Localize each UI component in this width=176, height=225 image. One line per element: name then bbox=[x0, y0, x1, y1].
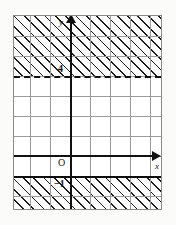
grid-line-horizontal bbox=[14, 196, 161, 197]
y-axis-arrow-icon bbox=[66, 15, 76, 23]
x-axis-arrow-icon bbox=[152, 151, 161, 161]
tick-label-neg1: −1 bbox=[54, 179, 65, 189]
grid-line-vertical bbox=[150, 16, 151, 209]
coordinate-plane: y x O 4 −1 bbox=[13, 15, 162, 210]
grid-line-vertical bbox=[110, 16, 111, 209]
grid-line-horizontal bbox=[14, 56, 161, 57]
grid-line-vertical bbox=[50, 16, 51, 209]
grid-line-horizontal bbox=[14, 116, 161, 117]
grid-line-horizontal bbox=[14, 36, 161, 37]
y-axis bbox=[70, 20, 72, 209]
x-axis bbox=[14, 155, 153, 157]
graph-figure: y x O 4 −1 bbox=[0, 0, 176, 225]
grid-line-horizontal bbox=[14, 96, 161, 97]
origin-label: O bbox=[58, 158, 65, 168]
shaded-region-above-4 bbox=[14, 16, 161, 77]
grid-line-horizontal bbox=[14, 136, 161, 137]
x-axis-label: x bbox=[155, 162, 159, 171]
shaded-region-below-neg1 bbox=[14, 177, 161, 209]
grid-line-vertical bbox=[130, 16, 131, 209]
grid-line-vertical bbox=[90, 16, 91, 209]
grid-line-vertical bbox=[30, 16, 31, 209]
upper-boundary-line-dashed bbox=[14, 76, 161, 78]
y-axis-label: y bbox=[59, 18, 63, 27]
tick-label-4: 4 bbox=[58, 64, 63, 74]
lower-boundary-line-solid bbox=[14, 176, 161, 178]
grid-lines bbox=[14, 16, 161, 209]
